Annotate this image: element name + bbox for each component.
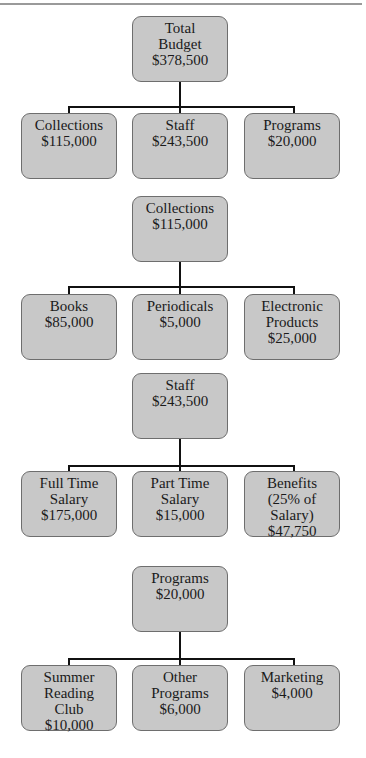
node-line: $20,000 [133,586,227,602]
node-line: $47,750 [245,523,339,539]
node-full-time-salary: Full Time Salary $175,000 [21,471,117,537]
node-line: Salary [22,491,116,507]
node-line: Staff [133,117,227,133]
node-books: Books $85,000 [21,294,117,360]
connector-horizontal [68,658,295,660]
node-collections: Collections $115,000 [21,113,117,179]
node-line: Other [133,669,227,685]
node-line: $85,000 [22,314,116,330]
node-line: $25,000 [245,330,339,346]
connector-vertical [179,82,181,107]
node-line: Total [133,20,227,36]
node-line: Electronic [245,298,339,314]
connector-drop [179,106,181,113]
node-staff-parent: Staff $243,500 [132,373,228,439]
node-programs-parent: Programs $20,000 [132,566,228,632]
connector-vertical [179,439,181,466]
node-line: Programs [133,570,227,586]
top-rule [0,3,362,5]
node-line: Books [22,298,116,314]
node-line: Collections [22,117,116,133]
connector-drop [179,658,181,665]
node-collections-parent: Collections $115,000 [132,196,228,262]
node-line: Salary [133,491,227,507]
connector-drop [293,106,295,113]
node-line: $175,000 [22,507,116,523]
node-line: $378,500 [133,52,227,68]
node-line: $5,000 [133,314,227,330]
node-line: Programs [245,117,339,133]
node-line: Periodicals [133,298,227,314]
node-line: Programs [133,685,227,701]
node-other-programs: Other Programs $6,000 [132,665,228,731]
node-line: $15,000 [133,507,227,523]
node-line: Staff [133,377,227,393]
node-line: Collections [133,200,227,216]
connector-drop [68,658,70,665]
node-summer-reading-club: Summer Reading Club $10,000 [21,665,117,731]
node-line: $4,000 [245,685,339,701]
node-programs: Programs $20,000 [244,113,340,179]
node-line: Reading [22,685,116,701]
node-line: $243,500 [133,393,227,409]
node-line: Club [22,701,116,717]
connector-horizontal [68,465,295,467]
connector-horizontal [68,106,295,108]
node-line: $6,000 [133,701,227,717]
connector-vertical [179,262,181,287]
node-periodicals: Periodicals $5,000 [132,294,228,360]
node-line: Products [245,314,339,330]
node-benefits: Benefits (25% of Salary) $47,750 [244,471,340,537]
node-line: Summer [22,669,116,685]
node-electronic-products: Electronic Products $25,000 [244,294,340,360]
connector-drop [68,106,70,113]
connector-drop [179,286,181,294]
node-marketing: Marketing $4,000 [244,665,340,731]
node-line: $243,500 [133,133,227,149]
node-line: Full Time [22,475,116,491]
connector-vertical [179,632,181,659]
connector-drop [68,286,70,294]
node-line: $115,000 [22,133,116,149]
node-line: Part Time [133,475,227,491]
node-line: $20,000 [245,133,339,149]
node-staff: Staff $243,500 [132,113,228,179]
node-line: Budget [133,36,227,52]
node-line: (25% of Salary) [245,491,339,523]
node-total-budget: Total Budget $378,500 [132,16,228,82]
node-part-time-salary: Part Time Salary $15,000 [132,471,228,537]
node-line: $10,000 [22,717,116,733]
node-line: Marketing [245,669,339,685]
node-line: $115,000 [133,216,227,232]
connector-drop [293,286,295,294]
connector-drop [293,658,295,665]
node-line: Benefits [245,475,339,491]
connector-horizontal [68,286,295,288]
